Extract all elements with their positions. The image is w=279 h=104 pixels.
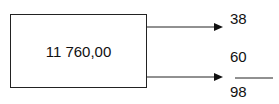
arrow-head-icon <box>214 23 223 31</box>
label-numerator: 60 <box>230 49 247 64</box>
arrow-head-icon <box>214 73 223 81</box>
label-denominator: 98 <box>230 84 247 99</box>
label-top: 38 <box>230 11 247 26</box>
diagram: 11 760,00 38 60 98 <box>0 0 279 104</box>
